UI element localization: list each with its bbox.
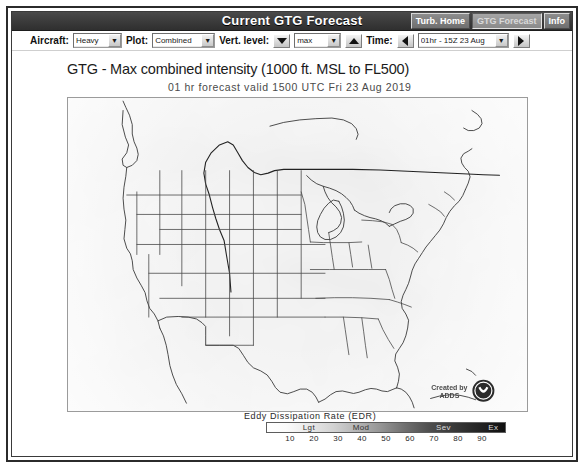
vert-level-up-button[interactable] xyxy=(345,34,362,48)
chart-title: GTG - Max combined intensity (1000 ft. M… xyxy=(67,61,409,77)
colorbar-title: Eddy Dissipation Rate (EDR) xyxy=(244,411,530,421)
triangle-down-icon xyxy=(277,38,287,44)
triangle-left-icon xyxy=(402,36,408,46)
chart-subtitle: 01 hr forecast valid 1500 UTC Fri 23 Aug… xyxy=(168,81,412,93)
colorbar-tick: 90 xyxy=(477,433,487,444)
title-bar: Current GTG Forecast Turb. Home GTG Fore… xyxy=(12,12,572,31)
colorbar-band-lgt: Lgt xyxy=(303,423,315,433)
window-inner-frame: Current GTG Forecast Turb. Home GTG Fore… xyxy=(11,11,573,457)
time-select[interactable]: 01hr - 15Z 23 Aug ▼ xyxy=(418,33,509,48)
plot-select[interactable]: Combined ▼ xyxy=(152,33,215,48)
vert-level-select-value: max xyxy=(297,35,325,47)
chevron-down-icon: ▼ xyxy=(495,34,508,47)
chevron-down-icon: ▼ xyxy=(108,34,121,47)
colorbar-tick: 30 xyxy=(333,433,343,444)
forecast-content: GTG - Max combined intensity (1000 ft. M… xyxy=(12,51,572,457)
time-previous-button[interactable] xyxy=(397,34,414,48)
nav-button-info[interactable]: Info xyxy=(544,13,571,29)
time-select-value: 01hr - 15Z 23 Aug xyxy=(421,35,493,47)
nav-button-group: Turb. Home GTG Forecast Info xyxy=(411,13,570,29)
time-label: Time: xyxy=(366,35,393,47)
aircraft-select-value: Heavy xyxy=(76,35,106,47)
plot-select-value: Combined xyxy=(155,35,199,47)
colorbar-legend: Eddy Dissipation Rate (EDR) Lgt Mod Sev … xyxy=(240,411,530,445)
aircraft-label: Aircraft: xyxy=(30,35,69,47)
colorbar-ticks: 10 20 30 40 50 60 70 80 90 xyxy=(266,433,506,445)
colorbar-tick: 70 xyxy=(429,433,439,444)
vert-level-select[interactable]: max ▼ xyxy=(294,33,341,48)
triangle-up-icon xyxy=(349,38,359,44)
colorbar-tick: 60 xyxy=(405,433,415,444)
colorbar-strip: Lgt Mod Sev Ex xyxy=(266,422,506,433)
colorbar-tick: 40 xyxy=(357,433,367,444)
colorbar-tick: 10 xyxy=(285,433,295,444)
colorbar-band-sev: Sev xyxy=(436,423,451,433)
chevron-down-icon: ▼ xyxy=(327,34,340,47)
plot-label: Plot: xyxy=(126,35,148,47)
nav-button-gtg-forecast[interactable]: GTG Forecast xyxy=(472,13,542,29)
vert-level-down-button[interactable] xyxy=(273,34,290,48)
nav-button-turb-home[interactable]: Turb. Home xyxy=(411,13,470,29)
chevron-down-icon: ▼ xyxy=(201,34,214,47)
colorbar-band-mod: Mod xyxy=(353,423,370,433)
forecast-map[interactable] xyxy=(67,97,528,412)
map-canvas[interactable] xyxy=(68,98,527,411)
aircraft-select[interactable]: Heavy ▼ xyxy=(73,33,122,48)
application-window: Current GTG Forecast Turb. Home GTG Fore… xyxy=(6,6,578,462)
time-next-button[interactable] xyxy=(513,34,530,48)
colorbar-tick: 80 xyxy=(453,433,463,444)
triangle-right-icon xyxy=(518,36,524,46)
colorbar-band-ex: Ex xyxy=(488,423,498,433)
vert-level-label: Vert. level: xyxy=(219,35,269,47)
colorbar-tick: 20 xyxy=(309,433,319,444)
colorbar-tick: 50 xyxy=(381,433,391,444)
control-bar: Aircraft: Heavy ▼ Plot: Combined ▼ Vert.… xyxy=(12,31,572,51)
